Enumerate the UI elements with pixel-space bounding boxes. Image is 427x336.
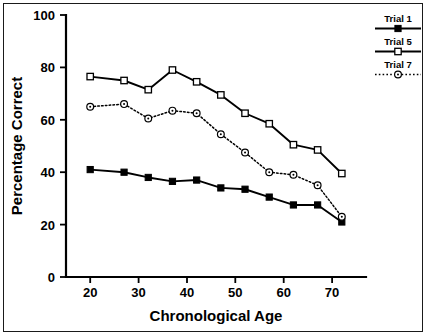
data-point-center: [220, 133, 222, 135]
data-point: [145, 86, 151, 92]
series-trial-5: [87, 67, 345, 177]
x-tick-label-40: 40: [180, 285, 194, 300]
legend-marker: [395, 25, 401, 31]
data-point-center: [268, 171, 270, 173]
data-point: [193, 79, 199, 85]
data-point: [266, 194, 272, 200]
legend-item-trial-7[interactable]: Trial 7: [375, 59, 421, 78]
x-tick-label-30: 30: [131, 285, 145, 300]
series-trial-1: [87, 166, 345, 225]
data-point: [218, 185, 224, 191]
data-point-center: [244, 152, 246, 154]
line-chart: 0 20 40 60 80 100 20 30 40 50 60 70 Chro…: [0, 0, 427, 336]
data-point: [194, 177, 200, 183]
legend-label: Trial 5: [384, 36, 412, 47]
series-line: [90, 104, 342, 217]
data-point: [87, 73, 93, 79]
x-axis-title: Chronological Age: [150, 307, 283, 324]
data-point: [145, 174, 151, 180]
legend-marker: [395, 48, 401, 54]
data-point-center: [317, 184, 319, 186]
series-layer: [87, 67, 345, 225]
legend-label: Trial 1: [384, 13, 412, 24]
data-point: [169, 67, 175, 73]
data-point-center: [292, 174, 294, 176]
series-line: [90, 70, 342, 173]
data-point: [290, 141, 296, 147]
data-point-center: [147, 117, 149, 119]
data-point: [169, 178, 175, 184]
y-tick-label-20: 20: [41, 218, 55, 233]
x-tick-label-70: 70: [325, 285, 339, 300]
chart-legend: Trial 1Trial 5Trial 7: [375, 13, 421, 78]
y-axis-title: Percentage Correct: [8, 77, 25, 215]
y-tick-label-100: 100: [33, 8, 55, 23]
data-point: [339, 170, 345, 176]
data-point: [242, 110, 248, 116]
data-point: [242, 186, 248, 192]
data-point: [87, 166, 93, 172]
data-point: [121, 77, 127, 83]
legend-item-trial-5[interactable]: Trial 5: [375, 36, 421, 55]
data-point: [266, 121, 272, 127]
data-point-center: [89, 106, 91, 108]
x-tick-label-60: 60: [276, 285, 290, 300]
x-tick-label-50: 50: [228, 285, 242, 300]
legend-label: Trial 7: [384, 59, 411, 70]
legend-item-trial-1[interactable]: Trial 1: [375, 13, 421, 32]
data-point: [218, 92, 224, 98]
y-tick-label-40: 40: [41, 165, 55, 180]
x-tick-label-20: 20: [83, 285, 97, 300]
series-line: [90, 170, 342, 222]
y-tick-label-0: 0: [48, 270, 55, 285]
data-point: [121, 169, 127, 175]
data-point-center: [341, 216, 343, 218]
chart-figure: 0 20 40 60 80 100 20 30 40 50 60 70 Chro…: [0, 0, 427, 336]
data-point-center: [196, 112, 198, 114]
series-trial-7: [87, 101, 345, 220]
data-point: [314, 147, 320, 153]
data-point: [290, 202, 296, 208]
data-point: [315, 202, 321, 208]
y-tick-label-80: 80: [41, 60, 55, 75]
y-tick-label-60: 60: [41, 113, 55, 128]
legend-marker-center: [397, 74, 399, 76]
data-point-center: [171, 110, 173, 112]
data-point-center: [123, 103, 125, 105]
